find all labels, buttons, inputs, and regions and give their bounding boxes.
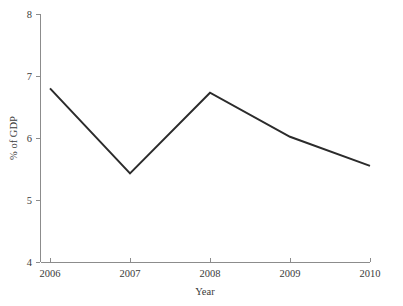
y-tick-label-6: 6 [27,133,32,144]
x-tick-label-2010: 2010 [360,268,381,279]
y-tick-label-7: 7 [27,71,32,82]
x-tick-label-2008: 2008 [200,268,221,279]
line-chart: 8 7 6 5 4 2006 2007 2008 2009 2010 % of … [0,0,403,306]
x-axis-title: Year [195,286,215,297]
x-tick-label-2006: 2006 [40,268,61,279]
chart-canvas: 8 7 6 5 4 2006 2007 2008 2009 2010 % of … [0,0,403,306]
y-tick-label-5: 5 [27,195,32,206]
chart-background [0,0,403,306]
y-tick-label-4: 4 [27,257,33,268]
y-tick-label-8: 8 [27,9,32,20]
y-axis-title: % of GDP [8,116,19,160]
x-tick-label-2009: 2009 [280,268,301,279]
x-tick-label-2007: 2007 [120,268,141,279]
